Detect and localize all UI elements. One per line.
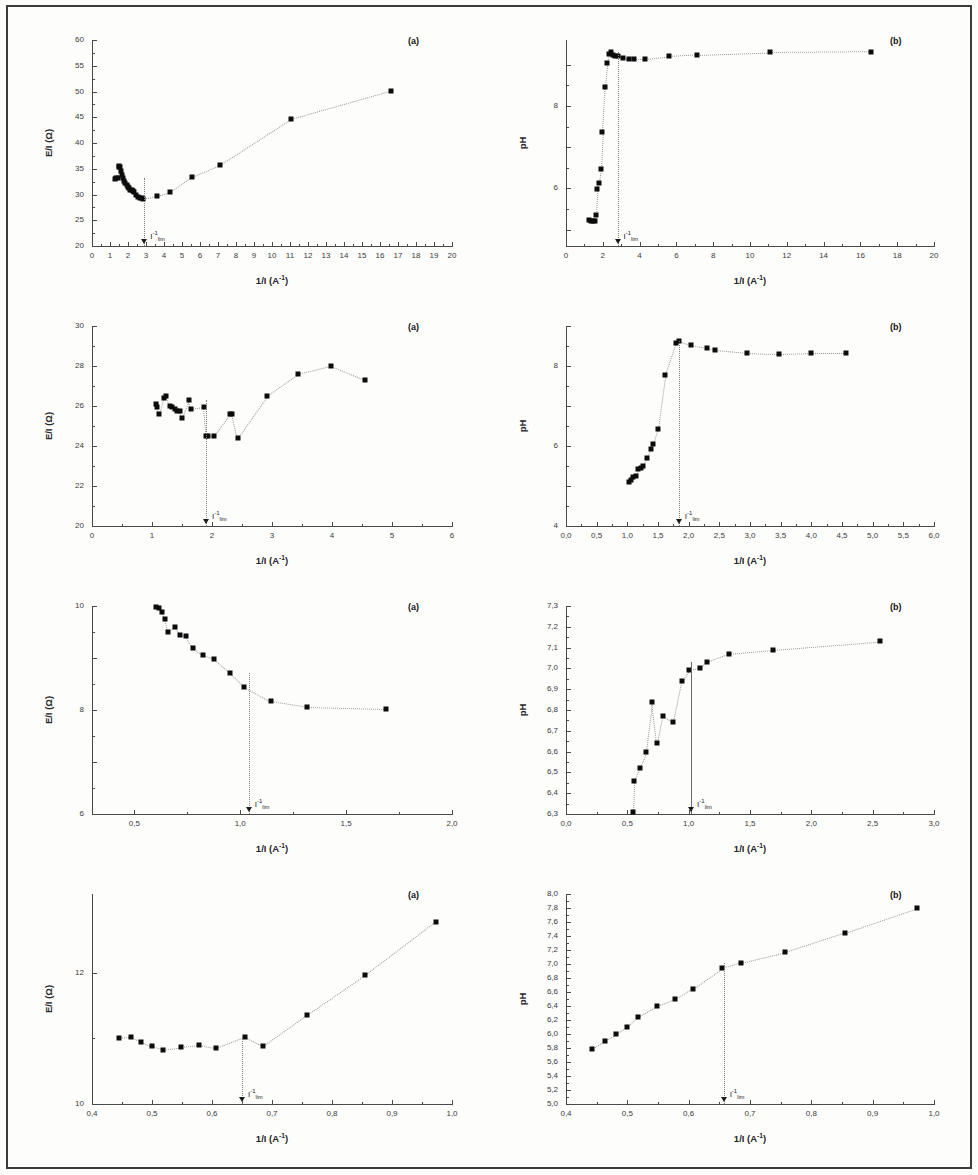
ilim-label: I-1lim [624,230,639,241]
y-tick-label: 7,0 [524,664,558,672]
data-point [190,645,195,650]
x-tick-label: 0,0 [560,820,571,828]
x-tick [326,242,327,247]
y-tick [92,195,97,196]
x-minor-tick [425,244,426,247]
x-tick [128,242,129,247]
y-tick [92,169,97,170]
y-tick [92,762,97,763]
y-tick [566,106,571,107]
x-tick [603,242,604,247]
data-point [771,647,776,652]
data-point [184,634,189,639]
panel-r3a: 0,51,01,52,06810I-1lim1/I (A-1)E/I (Ω)(a… [14,584,484,872]
x-tick-label: 1,0 [622,532,633,540]
x-minor-tick [173,244,174,247]
y-minor-tick [566,804,569,805]
y-tick [92,246,97,247]
x-tick-label: 12 [304,252,313,260]
y-tick-label: 5,0 [524,1100,558,1108]
plot-area-r1a: 0123456789101112131415161718192020253035… [92,40,452,246]
data-point [304,704,309,709]
guide-segment [271,701,307,708]
y-tick-label: 20 [50,522,84,530]
y-axis-title: pH [517,137,528,150]
guide-segment [298,366,331,375]
y-axis-title: E/I (Ω) [43,412,54,440]
x-tick-label: 10 [746,252,755,260]
data-point [288,117,293,122]
x-tick-label: 2,0 [683,532,694,540]
y-tick [92,326,97,327]
ilim-arrowhead [615,239,621,244]
data-point [643,56,648,61]
data-point [211,434,216,439]
x-tick [811,1100,812,1105]
y-tick-label: 30 [50,322,84,330]
x-tick [332,1100,333,1105]
y-tick [566,1048,571,1049]
y-minor-tick [566,971,569,972]
data-point [621,56,626,61]
x-tick-label: 0 [564,252,568,260]
y-tick [566,627,571,628]
guide-segment [693,968,723,989]
plot-area-r2b: 0,00,51,01,52,02,53,03,54,04,55,05,56,04… [566,326,934,526]
x-minor-tick [191,244,192,247]
x-minor-tick [119,244,120,247]
y-minor-tick [92,130,95,131]
data-point [625,1025,630,1030]
y-tick [92,486,97,487]
y-tick [92,710,97,711]
data-point [667,54,672,59]
x-tick-label: 1,0 [235,820,246,828]
plot-area-r4b: 0,40,50,60,70,80,91,05,05,25,45,65,86,06… [566,894,934,1104]
x-tick-label: 1,0 [446,1110,457,1118]
guide-segment [773,641,880,650]
y-tick-label: 6 [524,442,558,450]
data-point [242,684,247,689]
y-tick-label: 7,1 [524,644,558,652]
data-point [630,809,635,814]
x-minor-tick [101,244,102,247]
x-minor-tick [735,524,736,527]
ilim-vertical-line [724,963,725,1104]
y-tick-label: 50 [50,88,84,96]
panel-r2a: 0123456202224262830I-1lim1/I (A-1)E/I (Ω… [14,304,484,584]
x-tick-label: 0,7 [266,1110,277,1118]
panel-r2b: 0,00,51,01,52,02,53,03,54,04,55,05,56,04… [484,304,954,584]
y-tick-label: 6,6 [524,748,558,756]
x-tick-label: 14 [819,252,828,260]
data-point [768,50,773,55]
data-point [590,1046,595,1051]
y-tick-label: 6,6 [524,988,558,996]
x-minor-tick [612,524,613,527]
x-tick [627,810,628,815]
ilim-vertical-line [249,673,250,814]
x-tick-label: 0,6 [683,1110,694,1118]
data-point [698,666,703,671]
y-tick-label: 7,2 [524,946,558,954]
data-point [914,906,919,911]
data-point [655,741,660,746]
panel-tag: (b) [890,602,902,612]
x-tick [392,522,393,527]
y-minor-tick [566,466,569,467]
data-point [268,699,273,704]
y-tick-label: 24 [50,442,84,450]
x-tick [934,242,935,247]
x-tick-label: 5,0 [867,532,878,540]
y-tick-label: 7,8 [524,904,558,912]
panel-tag: (a) [408,36,419,46]
x-tick-label: 5 [180,252,184,260]
data-point [782,950,787,955]
x-tick [873,522,874,527]
x-tick-label: 1,5 [744,820,755,828]
guide-segment [601,132,604,168]
x-tick [344,242,345,247]
x-tick [676,242,677,247]
guide-segment [747,353,779,355]
x-tick-label: 8 [711,252,715,260]
x-tick [134,810,135,815]
y-tick [566,936,571,937]
